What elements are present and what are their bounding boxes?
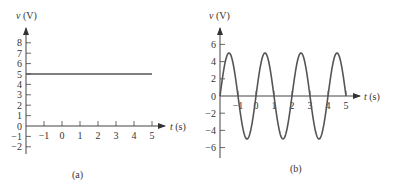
y-tick-label: 4 [211,56,216,67]
x-tick-label: 3 [114,130,119,141]
y-tick-label: 1 [17,110,22,121]
chart-b-axes [220,28,360,158]
y-tick-label: −2 [205,108,216,119]
y-tick-label: 0 [211,91,216,102]
chart-a-caption: (a) [72,169,83,181]
y-tick-label: 2 [211,73,216,84]
y-tick-label: 6 [17,58,22,69]
x-tick-label: 4 [132,130,137,141]
y-tick-label: 0 [17,121,22,132]
y-tick-label: −6 [205,142,216,153]
y-tick-label: 8 [17,37,22,48]
chart-a-ylabel: v (V) [16,10,37,22]
chart-a-xlabel: t (s) [170,121,186,133]
y-tick-label: −4 [205,125,216,136]
y-tick-label: −1 [11,131,22,142]
y-tick-label: 2 [17,100,22,111]
x-tick-label: 5 [344,100,349,111]
chart-b-caption: (b) [290,163,302,175]
y-tick-label: 6 [211,39,216,50]
x-tick-label: 2 [96,130,101,141]
chart-b-xlabel: t (s) [364,91,380,103]
x-tick-label: −1 [39,130,50,141]
y-tick-label: 7 [17,48,22,59]
chart-a-ticks: −2−1012345678−1012345 [11,37,154,152]
chart-b-ylabel: v (V) [209,10,230,22]
y-tick-label: −2 [11,141,22,152]
chart-b: −6−4−20246−1012345 v (V) t (s) (b) [205,10,379,175]
y-tick-label: 4 [17,79,22,90]
y-tick-label: 5 [17,69,22,80]
x-tick-label: 5 [150,130,155,141]
x-tick-label: 0 [60,130,65,141]
chart-a: −2−1012345678−1012345 v (V) t (s) (a) [11,10,185,181]
x-tick-label: 1 [78,130,83,141]
y-tick-label: 3 [17,89,22,100]
figure: −2−1012345678−1012345 v (V) t (s) (a) −6… [0,0,393,186]
